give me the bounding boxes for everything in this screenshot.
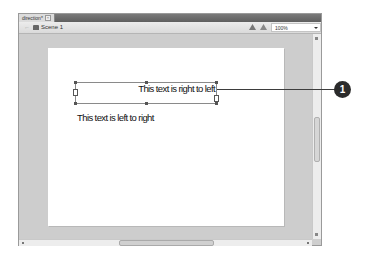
resize-handle-right[interactable] [214, 95, 219, 102]
transform-handle[interactable] [74, 102, 77, 105]
edit-bar: ← Scene 1 100% [19, 22, 321, 34]
resize-handle-left[interactable] [73, 89, 78, 96]
horizontal-scrollbar[interactable] [19, 239, 312, 246]
vertical-scroll-thumb[interactable] [314, 117, 320, 162]
transform-handle[interactable] [215, 81, 218, 84]
callout-line [217, 89, 335, 90]
text-left-to-right[interactable]: This text is left to right [77, 112, 154, 123]
chevron-down-icon [314, 27, 318, 29]
scroll-down-icon[interactable] [315, 233, 318, 236]
transform-handle[interactable] [74, 81, 77, 84]
back-arrow-icon[interactable]: ← [24, 24, 30, 30]
zoom-dropdown[interactable]: 100% [271, 23, 321, 32]
scroll-left-icon[interactable] [22, 242, 24, 244]
transform-handle[interactable] [145, 81, 148, 84]
stage[interactable] [48, 48, 284, 226]
zoom-value: 100% [275, 25, 288, 31]
edit-scene-icon[interactable] [260, 24, 267, 30]
horizontal-scroll-thumb[interactable] [119, 240, 214, 246]
tab-label: direction* [22, 14, 43, 22]
document-tab[interactable]: direction* × [19, 14, 55, 22]
close-tab-icon[interactable]: × [45, 15, 51, 21]
transform-handle[interactable] [215, 102, 218, 105]
edit-symbols-icon[interactable] [249, 24, 256, 30]
scene-icon [33, 25, 39, 30]
document-window: direction* × ← Scene 1 100% [18, 13, 322, 246]
tab-bar: direction* × [19, 14, 321, 22]
scroll-right-icon[interactable] [307, 242, 309, 244]
pasteboard [19, 34, 312, 239]
selected-text-field[interactable]: This text is right to left [75, 82, 217, 104]
text-right-to-left[interactable]: This text is right to left [138, 83, 215, 94]
callout-badge: 1 [334, 81, 351, 98]
transform-handle[interactable] [145, 102, 148, 105]
vertical-scrollbar[interactable] [312, 34, 321, 239]
scroll-up-icon[interactable] [315, 37, 318, 40]
scene-label[interactable]: Scene 1 [41, 23, 63, 32]
